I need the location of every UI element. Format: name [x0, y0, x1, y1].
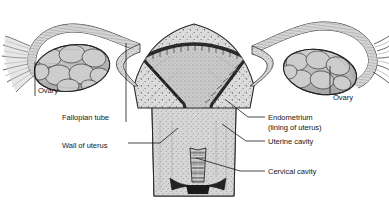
uterus-anatomy-illustration	[0, 0, 389, 202]
label-fallopian-tube: Fallopian tube	[62, 113, 109, 122]
label-endometrium: Endometrium	[268, 113, 313, 122]
label-ovary-left: Ovary	[38, 86, 58, 95]
uterus-body	[116, 24, 273, 196]
diagram-canvas: Ovary Fallopian tube Wall of uterus Ovar…	[0, 0, 389, 202]
label-wall-of-uterus: Wall of uterus	[62, 141, 107, 150]
cervix	[152, 108, 236, 196]
label-cervical-cavity: Cervical cavity	[268, 167, 316, 176]
label-uterine-cavity: Uterine cavity	[268, 137, 313, 146]
label-ovary-right: Ovary	[333, 93, 353, 102]
label-endometrium-sublabel: (lining of uterus)	[268, 123, 322, 132]
